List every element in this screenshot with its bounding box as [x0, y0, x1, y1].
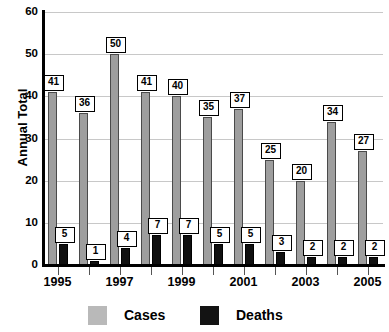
bar-value-label-deaths: 5: [241, 227, 261, 243]
y-axis-tick-label: 30: [2, 133, 38, 145]
y-axis-tick-label: 50: [2, 48, 38, 60]
bar-value-label-cases: 27: [354, 134, 374, 150]
y-axis-tick-labels: 0102030405060: [0, 0, 38, 332]
legend-label-deaths: Deaths: [236, 307, 283, 323]
legend-item-deaths: Deaths: [200, 303, 283, 327]
legend-item-cases: Cases: [88, 303, 165, 327]
y-axis-line: [42, 10, 45, 267]
bar-value-label-cases: 40: [168, 79, 188, 95]
x-axis-label: 2001: [221, 275, 267, 289]
gridline: [42, 12, 383, 13]
bar-value-label-deaths: 7: [179, 218, 199, 234]
bar-cases: [79, 113, 88, 265]
x-axis-tick-mark: [337, 267, 338, 275]
bar-value-label-deaths: 2: [365, 240, 385, 256]
y-axis-tick-label: 20: [2, 175, 38, 187]
bar-cases: [141, 92, 150, 265]
bar-cases: [172, 96, 181, 265]
bar-value-label-cases: 41: [137, 75, 157, 91]
chart-legend: Cases Deaths: [0, 303, 389, 329]
x-axis-label: 2003: [283, 275, 329, 289]
x-axis-label: 2005: [345, 275, 389, 289]
bar-value-label-cases: 20: [292, 164, 312, 180]
bar-value-label-cases: 34: [323, 105, 343, 121]
x-axis-line: [42, 264, 385, 267]
bar-deaths: [183, 235, 192, 265]
bar-deaths: [59, 244, 68, 265]
bar-value-label-deaths: 7: [148, 218, 168, 234]
bar-value-label-deaths: 2: [303, 240, 323, 256]
x-axis-tick-mark: [244, 267, 245, 275]
legend-label-cases: Cases: [124, 307, 165, 323]
x-axis-tick-mark: [306, 267, 307, 275]
x-axis-tick-mark: [151, 267, 152, 275]
x-axis-label: 1999: [159, 275, 205, 289]
bar-deaths: [214, 244, 223, 265]
deaths-swatch-icon: [200, 306, 219, 325]
x-axis-tick-mark: [120, 267, 121, 275]
x-axis-tick-mark: [58, 267, 59, 275]
bar-value-label-deaths: 5: [55, 227, 75, 243]
bar-value-label-deaths: 4: [117, 231, 137, 247]
x-axis-tick-mark: [368, 267, 369, 275]
bar-deaths: [152, 235, 161, 265]
plot-area: 415361504417407355375253202342272: [42, 12, 383, 265]
bar-value-label-deaths: 3: [272, 235, 292, 251]
bar-value-label-cases: 37: [230, 92, 250, 108]
cases-swatch-icon: [88, 306, 107, 325]
bar-value-label-deaths: 1: [86, 244, 106, 260]
x-axis-label: 1997: [97, 275, 143, 289]
y-axis-tick-label: 0: [2, 259, 38, 271]
bar-value-label-deaths: 5: [210, 227, 230, 243]
bar-value-label-cases: 36: [75, 96, 95, 112]
bar-value-label-cases: 35: [199, 100, 219, 116]
bar-value-label-deaths: 2: [334, 240, 354, 256]
x-axis-tick-mark: [182, 267, 183, 275]
x-axis-tick-mark: [89, 267, 90, 275]
bar-deaths: [121, 248, 130, 265]
x-axis-tick-mark: [213, 267, 214, 275]
bar-value-label-cases: 25: [261, 143, 281, 159]
x-axis-tick-mark: [275, 267, 276, 275]
bar-value-label-cases: 50: [106, 37, 126, 53]
bar-deaths: [245, 244, 254, 265]
y-axis-tick-label: 60: [2, 6, 38, 18]
y-axis-tick-label: 10: [2, 217, 38, 229]
x-axis-label: 1995: [35, 275, 81, 289]
bar-chart: Annual Total 0102030405060 4153615044174…: [0, 0, 389, 332]
y-axis-tick-label: 40: [2, 90, 38, 102]
gridline: [42, 54, 383, 55]
bar-value-label-cases: 41: [44, 75, 64, 91]
